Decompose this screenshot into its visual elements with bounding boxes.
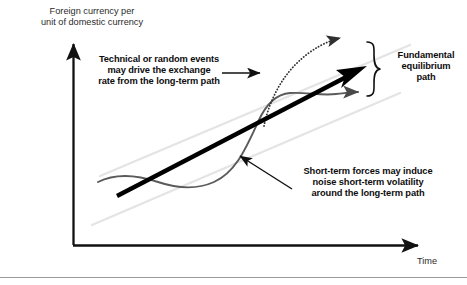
x-axis-label: Time <box>397 256 457 267</box>
technical-events-annotation: Technical or random events may drive the… <box>85 54 233 87</box>
diagram-canvas <box>0 0 467 285</box>
fundamental-trend-arrowhead <box>336 66 367 88</box>
short-term-forces-annotation: Short-term forces may induce noise short… <box>289 166 447 199</box>
footer-divider <box>0 277 467 278</box>
exchange-rate-diagram: Foreign currency per unit of domestic cu… <box>0 0 467 285</box>
short-term-annotation-arrow <box>240 156 292 189</box>
fundamental-equilibrium-path-annotation: Fundamental equilibrium path <box>387 50 465 83</box>
fundamental-path-brace <box>367 42 380 96</box>
y-axis-label: Foreign currency per unit of domestic cu… <box>17 6 167 28</box>
